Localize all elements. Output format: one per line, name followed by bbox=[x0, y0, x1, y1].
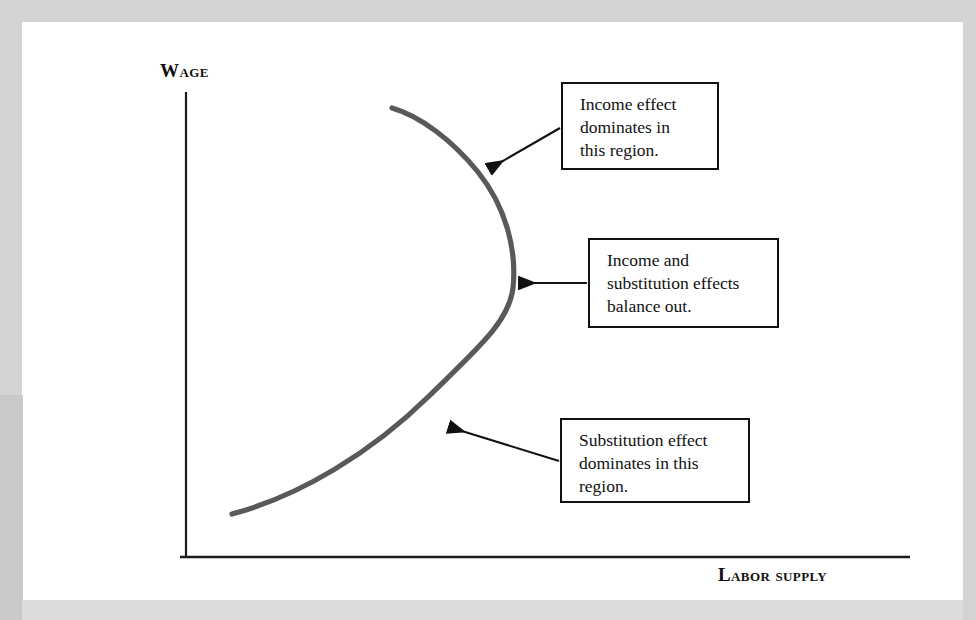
leader-line-income-effect bbox=[489, 128, 560, 169]
y-axis-label: Wage bbox=[160, 60, 209, 82]
figure-root: Wage Labor supply Income effect dominate… bbox=[0, 0, 976, 620]
leader-line-substitution-effect bbox=[449, 427, 559, 461]
x-axis-label: Labor supply bbox=[718, 564, 827, 586]
annotation-balance: Income and substitution effects balance … bbox=[588, 238, 779, 328]
annotation-substitution-effect: Substitution effect dominates in this re… bbox=[560, 418, 750, 503]
annotation-income-effect: Income effect dominates in this region. bbox=[561, 82, 719, 170]
plot-canvas bbox=[0, 0, 976, 620]
labor-supply-curve bbox=[232, 108, 514, 514]
